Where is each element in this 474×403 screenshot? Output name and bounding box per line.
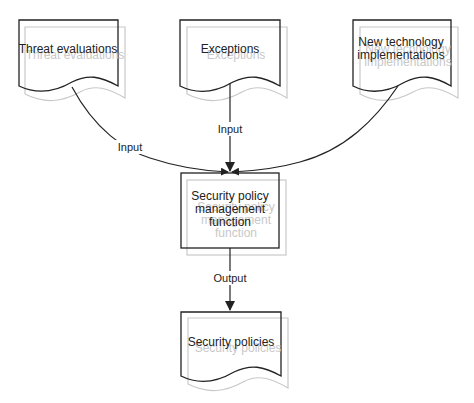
edge-exceptions-to-function: Input (215, 83, 245, 171)
node-label-3: function (209, 215, 251, 229)
edge-label: Input (118, 141, 142, 153)
document-shadow (187, 27, 287, 101)
diagram-canvas: Threat evaluations Threat evaluations Ex… (0, 0, 474, 403)
edge-function-to-policies: Output (211, 248, 249, 310)
node-label-2: management (195, 202, 266, 216)
node-label-2: implementations (357, 48, 444, 62)
node-exceptions[interactable]: Exceptions Exceptions (180, 20, 287, 101)
node-security-policies[interactable]: Security policies Security policies (181, 312, 288, 391)
node-security-policy-management-function[interactable]: Security policy management function Secu… (181, 173, 286, 255)
node-label: Threat evaluations (19, 42, 118, 56)
edge-label: Input (218, 123, 242, 135)
node-label: Security policies (188, 335, 275, 349)
node-new-technology-implementations[interactable]: New technology implementations New techn… (353, 20, 458, 101)
node-label-1: Security policy (191, 189, 268, 203)
document-shadow (25, 27, 125, 101)
node-label-1: New technology (358, 35, 443, 49)
node-threat-evaluations[interactable]: Threat evaluations Threat evaluations (19, 20, 125, 101)
node-label: Exceptions (201, 42, 260, 56)
edge-label: Output (213, 272, 246, 284)
